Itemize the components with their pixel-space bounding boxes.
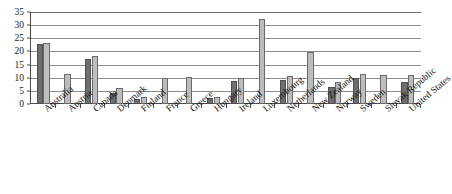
y-tick-label-25: 25 xyxy=(15,33,25,43)
y-tick-label-15: 15 xyxy=(15,60,25,70)
x-tick-mark xyxy=(226,104,227,108)
x-tick-mark xyxy=(104,104,105,108)
x-tick-mark xyxy=(420,104,421,108)
x-tick-mark xyxy=(274,104,275,108)
x-tick-mark xyxy=(298,104,299,108)
y-tick-label-20: 20 xyxy=(15,46,25,56)
bar xyxy=(186,77,192,104)
y-tick-label-30: 30 xyxy=(15,20,25,30)
y-tick-label-10: 10 xyxy=(15,73,25,83)
bar xyxy=(92,56,98,104)
x-tick-mark xyxy=(250,104,251,108)
bar-group xyxy=(31,12,55,104)
x-tick-mark xyxy=(80,104,81,108)
x-tick-mark xyxy=(396,104,397,108)
bar-group xyxy=(177,12,201,104)
bar xyxy=(37,44,43,104)
y-tick-label-35: 35 xyxy=(15,7,25,17)
x-tick-mark xyxy=(128,104,129,108)
x-tick-mark xyxy=(177,104,178,108)
x-tick-mark xyxy=(347,104,348,108)
bar-group xyxy=(250,12,274,104)
x-axis-labels: AustraliaAustriaCanadaDenmarkFinlandFran… xyxy=(0,106,428,194)
x-tick-mark xyxy=(55,104,56,108)
y-tick-label-5: 5 xyxy=(19,86,24,96)
x-tick-mark xyxy=(201,104,202,108)
bar xyxy=(43,43,49,104)
x-tick-mark xyxy=(371,104,372,108)
x-tick-mark xyxy=(323,104,324,108)
x-tick-mark xyxy=(153,104,154,108)
